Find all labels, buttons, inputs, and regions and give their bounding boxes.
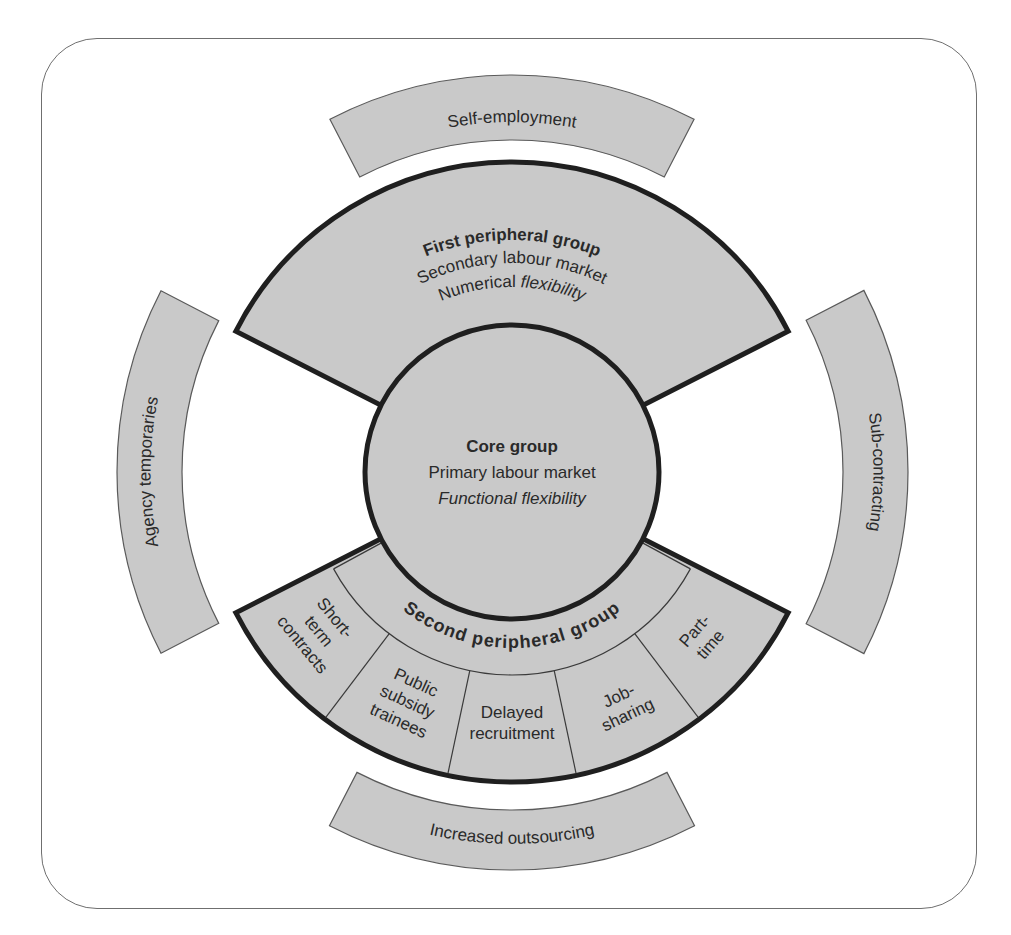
segment-label-line: Delayed	[481, 703, 543, 722]
core-group-title: Core group	[466, 437, 558, 456]
core-group-market: Primary labour market	[428, 463, 595, 482]
increased-outsourcing-piece	[329, 772, 694, 870]
flexible-firm-diagram: Self-employment Agency temporaries Sub-c…	[0, 0, 1011, 935]
segment-label-line: recruitment	[469, 724, 554, 743]
sub-contracting-piece	[806, 290, 908, 653]
core-group-flexibility: Functional flexibility	[438, 489, 587, 508]
agency-temporaries-piece	[117, 291, 219, 653]
